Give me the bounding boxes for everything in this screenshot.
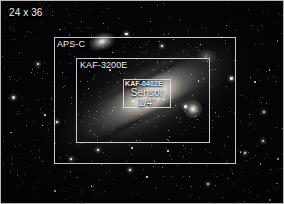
label-kaf-0402e-size: 1/4"	[123, 97, 171, 108]
label-aps-c: APS-C	[57, 39, 85, 49]
label-kaf-3200e: KAF-3200E	[80, 60, 127, 70]
label-full-frame: 24 x 36	[9, 7, 43, 18]
sensor-size-comparison-diagram: 24 x 36 APS-C KAF-3200E KAF-0402E Sensor…	[0, 0, 284, 204]
label-kaf-0402e-model: KAF-0402E	[125, 80, 163, 87]
